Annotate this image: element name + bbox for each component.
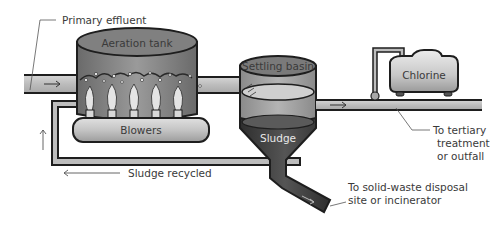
aeration-tank: Aeration tank bbox=[77, 28, 201, 120]
inlet-pipe bbox=[24, 75, 84, 93]
to-tertiary-label-2: treatment bbox=[437, 137, 490, 149]
settling-basin-label: Settling basin bbox=[242, 60, 314, 72]
wastewater-diagram: Aeration tank Blowers bbox=[0, 0, 502, 226]
blowers-label: Blowers bbox=[120, 124, 161, 136]
primary-effluent-label: Primary effluent bbox=[62, 14, 146, 26]
settling-basin: Settling basin Sludge bbox=[240, 56, 330, 212]
to-tertiary-label-3: or outfall bbox=[437, 150, 484, 162]
to-solid-waste-label-2: site or incinerator bbox=[348, 194, 442, 206]
chlorine-label: Chlorine bbox=[402, 69, 446, 81]
outlet-pipe bbox=[316, 100, 482, 110]
valve-icon bbox=[371, 92, 379, 100]
recycle-arrow-icon bbox=[64, 170, 120, 176]
to-tertiary-label-1: To tertiary bbox=[432, 124, 486, 136]
to-solid-waste-label-1: To solid-waste disposal bbox=[347, 181, 468, 193]
chlorine-tank: Chlorine bbox=[390, 50, 458, 96]
blowers: Blowers bbox=[73, 118, 209, 142]
sludge-label: Sludge bbox=[260, 132, 296, 144]
transfer-pipe bbox=[196, 77, 246, 93]
sludge-recycled-label: Sludge recycled bbox=[128, 167, 212, 179]
aeration-tank-label: Aeration tank bbox=[102, 37, 174, 49]
up-arrow-icon bbox=[40, 130, 46, 150]
